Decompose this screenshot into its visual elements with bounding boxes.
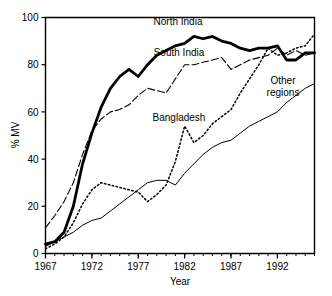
y-tick-label: 40 bbox=[27, 154, 39, 165]
figure-container: 020406080100 196719721977198219871992 No… bbox=[0, 0, 332, 296]
y-axis-title: % MV bbox=[10, 121, 21, 148]
y-tick-label: 0 bbox=[33, 248, 39, 259]
x-tick-label: 1967 bbox=[34, 261, 57, 272]
y-axis-tick-labels: 020406080100 bbox=[22, 12, 39, 259]
x-tick-label: 1992 bbox=[266, 261, 289, 272]
data-series-group bbox=[46, 34, 315, 249]
line-chart: 020406080100 196719721977198219871992 No… bbox=[0, 0, 332, 296]
series-label-south-india: South India bbox=[154, 47, 205, 58]
series-line-other-regions bbox=[46, 84, 315, 247]
x-axis-ticks bbox=[46, 254, 278, 259]
series-label-other-regions-line2: regions bbox=[267, 87, 300, 98]
x-axis-tick-labels: 196719721977198219871992 bbox=[34, 261, 289, 272]
truncated-caption bbox=[4, 288, 328, 296]
y-tick-label: 80 bbox=[27, 59, 39, 70]
series-label-bangladesh: Bangladesh bbox=[153, 112, 206, 123]
x-axis-title: Year bbox=[170, 276, 191, 287]
series-label-other-regions-line1: Other bbox=[270, 75, 296, 86]
x-tick-label: 1982 bbox=[174, 261, 197, 272]
y-tick-label: 60 bbox=[27, 107, 39, 118]
x-tick-label: 1972 bbox=[81, 261, 104, 272]
y-tick-label: 100 bbox=[22, 12, 39, 23]
series-line-bangladesh bbox=[46, 34, 315, 249]
y-tick-label: 20 bbox=[27, 201, 39, 212]
series-line-north-india bbox=[46, 36, 315, 244]
x-tick-label: 1987 bbox=[220, 261, 243, 272]
series-label-north-india: North India bbox=[154, 16, 203, 27]
x-tick-label: 1977 bbox=[127, 261, 150, 272]
